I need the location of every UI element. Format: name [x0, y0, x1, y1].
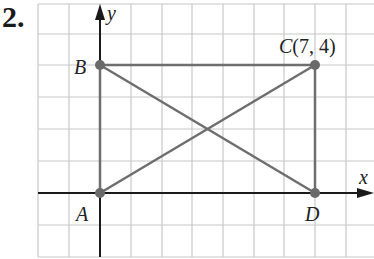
- y-axis-arrow-icon: [95, 4, 105, 20]
- point-d: [310, 188, 320, 198]
- point-c: [310, 60, 320, 70]
- coordinate-plane: y x B A D C(7, 4): [0, 0, 374, 259]
- point-c-label: C(7, 4): [279, 35, 336, 58]
- x-axis-label: x: [358, 166, 368, 188]
- point-a: [95, 188, 105, 198]
- point-b: [95, 60, 105, 70]
- point-d-label: D: [304, 203, 320, 225]
- point-b-label: B: [74, 56, 86, 78]
- point-a-label: A: [74, 203, 89, 225]
- y-axis-label: y: [105, 2, 116, 25]
- x-axis-arrow-icon: [357, 188, 374, 198]
